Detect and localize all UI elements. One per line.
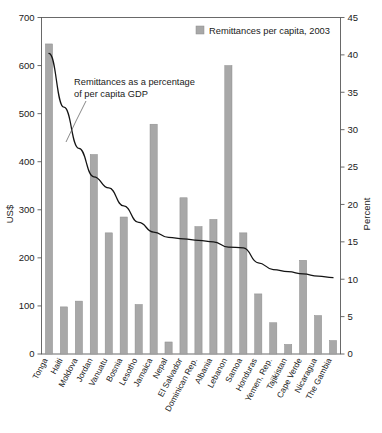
right-tick-label-45: 45 [348, 12, 359, 23]
left-tick-label-500: 500 [19, 108, 35, 119]
bar-moldova [75, 301, 82, 354]
bar-haiti [60, 307, 67, 354]
bar-dominican-rep [195, 227, 202, 354]
left-axis-title: US$ [4, 204, 15, 223]
bar-jamaica [150, 124, 157, 354]
bar-vanuatu [105, 233, 112, 354]
right-tick-label-35: 35 [348, 87, 359, 98]
bar-bosnia [120, 217, 127, 354]
left-tick-label-600: 600 [19, 60, 35, 71]
bar-lesotho [135, 304, 142, 354]
bar-honduras [255, 294, 262, 354]
left-tick-label-100: 100 [19, 300, 35, 311]
bar-tonga [45, 44, 52, 354]
bar-the-gambia [329, 341, 336, 354]
annotation-line-1: Remittances as a percentage [74, 77, 195, 87]
right-tick-label-0: 0 [348, 348, 353, 359]
bar-el-salvador [180, 198, 187, 354]
right-axis-title: Percent [361, 197, 372, 230]
right-tick-label-25: 25 [348, 161, 359, 172]
chart-legend: Remittances per capita, 2003 [196, 26, 330, 36]
right-tick-label-20: 20 [348, 199, 359, 210]
left-tick-label-200: 200 [19, 252, 35, 263]
right-tick-label-30: 30 [348, 124, 359, 135]
chart-figure: 0100200300400500600700 05101520253035404… [0, 0, 382, 433]
left-tick-label-700: 700 [19, 12, 35, 23]
left-tick-label-0: 0 [29, 348, 34, 359]
legend-label-remittances-per-capita: Remittances per capita, 2003 [209, 26, 330, 36]
bar-jordan [90, 155, 97, 355]
remittances-chart: 0100200300400500600700 05101520253035404… [0, 0, 382, 433]
bar-nicaragua [314, 316, 321, 354]
left-tick-label-300: 300 [19, 204, 35, 215]
bar-nepal [165, 342, 172, 354]
annotation-line-2: of per capita GDP [74, 89, 148, 99]
bar-lebanon [225, 66, 232, 354]
bar-samoa [240, 233, 247, 354]
bar-albania [210, 219, 217, 354]
right-tick-label-10: 10 [348, 274, 359, 285]
right-tick-label-15: 15 [348, 236, 359, 247]
legend-swatch-remittances-per-capita [196, 26, 204, 34]
bar-tajikistan [285, 344, 292, 354]
left-tick-label-400: 400 [19, 156, 35, 167]
bar-yemen-rep [270, 323, 277, 354]
right-tick-label-40: 40 [348, 49, 359, 60]
right-tick-label-5: 5 [348, 311, 353, 322]
